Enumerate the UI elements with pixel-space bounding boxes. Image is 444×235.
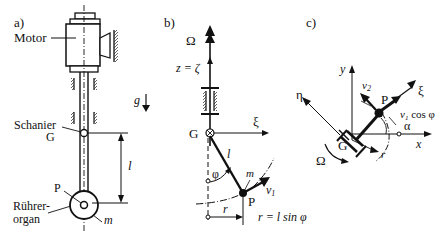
y-axis-arrow-icon xyxy=(349,65,355,73)
v2-label: v2 xyxy=(362,79,371,93)
pendulum-rod xyxy=(210,136,243,193)
omega-label: Ω xyxy=(186,33,196,48)
gravity-arrow-icon xyxy=(142,105,150,112)
motor-label: Motor xyxy=(14,30,47,45)
gravity-label: g xyxy=(134,93,140,107)
rod xyxy=(356,114,379,140)
phi-label: φ xyxy=(212,167,219,181)
axis-label: z = ζ xyxy=(175,61,201,75)
eta-label: η xyxy=(296,87,303,102)
hinge-label: G xyxy=(338,138,347,153)
radius-formula: r = l sin φ xyxy=(258,210,307,224)
point-p-label: P xyxy=(248,194,255,209)
x-axis-arrow-icon xyxy=(424,131,432,137)
omega-rotation-icon xyxy=(341,158,349,164)
hinge-label: G xyxy=(189,126,198,141)
hinge-label-line2: G xyxy=(46,130,55,144)
alpha-label: α xyxy=(404,119,411,133)
panel-c: c) y x η ξ P v2 xyxy=(296,15,435,168)
panel-b-label: b) xyxy=(164,15,175,30)
mass-label: m xyxy=(104,213,113,227)
stirrer-label-line1: Rührer- xyxy=(13,199,50,213)
radius-label: r xyxy=(381,148,386,160)
length-label: l xyxy=(128,158,132,173)
xi-label: ξ xyxy=(418,83,424,98)
panel-b: b) Ω z = ζ G ξ l φ xyxy=(164,15,307,225)
radius-label: r xyxy=(223,202,228,216)
mechanics-diagram: a) Motor xyxy=(0,0,444,235)
length-label: l xyxy=(227,147,231,161)
x-label: x xyxy=(415,137,422,151)
motor xyxy=(66,13,118,72)
mass-label: m xyxy=(246,167,254,179)
velocity-label: v1 xyxy=(266,183,275,198)
hinge-icon xyxy=(81,130,88,137)
point-p-label: P xyxy=(381,92,388,107)
omega-label: Ω xyxy=(316,153,326,168)
point-p-label: P xyxy=(54,181,61,195)
panel-a: a) Motor xyxy=(13,5,150,232)
xi-axis-arrow-icon xyxy=(407,80,416,89)
panel-a-label: a) xyxy=(14,15,24,30)
panel-c-label: c) xyxy=(306,15,316,30)
y-label: y xyxy=(339,62,346,76)
stirrer-label-line2: organ xyxy=(13,212,40,226)
xi-label: ξ xyxy=(253,114,259,129)
